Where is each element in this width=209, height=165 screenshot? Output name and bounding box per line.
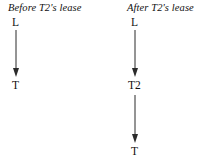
panel-before-lease: Before T2's lease L T: [0, 0, 110, 165]
panel-after-title: After T2's lease: [127, 2, 194, 14]
node-after-landlord: L: [131, 16, 138, 28]
lease-hierarchy-diagram: Before T2's lease L T After T2's lease L…: [0, 0, 209, 165]
panel-before-title: Before T2's lease: [8, 2, 82, 14]
node-after-tenant: T: [131, 145, 138, 157]
arrow-after-t2-to-t-icon: [130, 95, 141, 144]
arrow-before-l-to-t-icon: [11, 30, 22, 78]
arrow-after-l-to-t2-icon: [130, 30, 141, 78]
node-after-subtenant-t2: T2: [128, 79, 141, 91]
node-before-landlord: L: [12, 16, 19, 28]
node-before-tenant: T: [12, 79, 19, 91]
